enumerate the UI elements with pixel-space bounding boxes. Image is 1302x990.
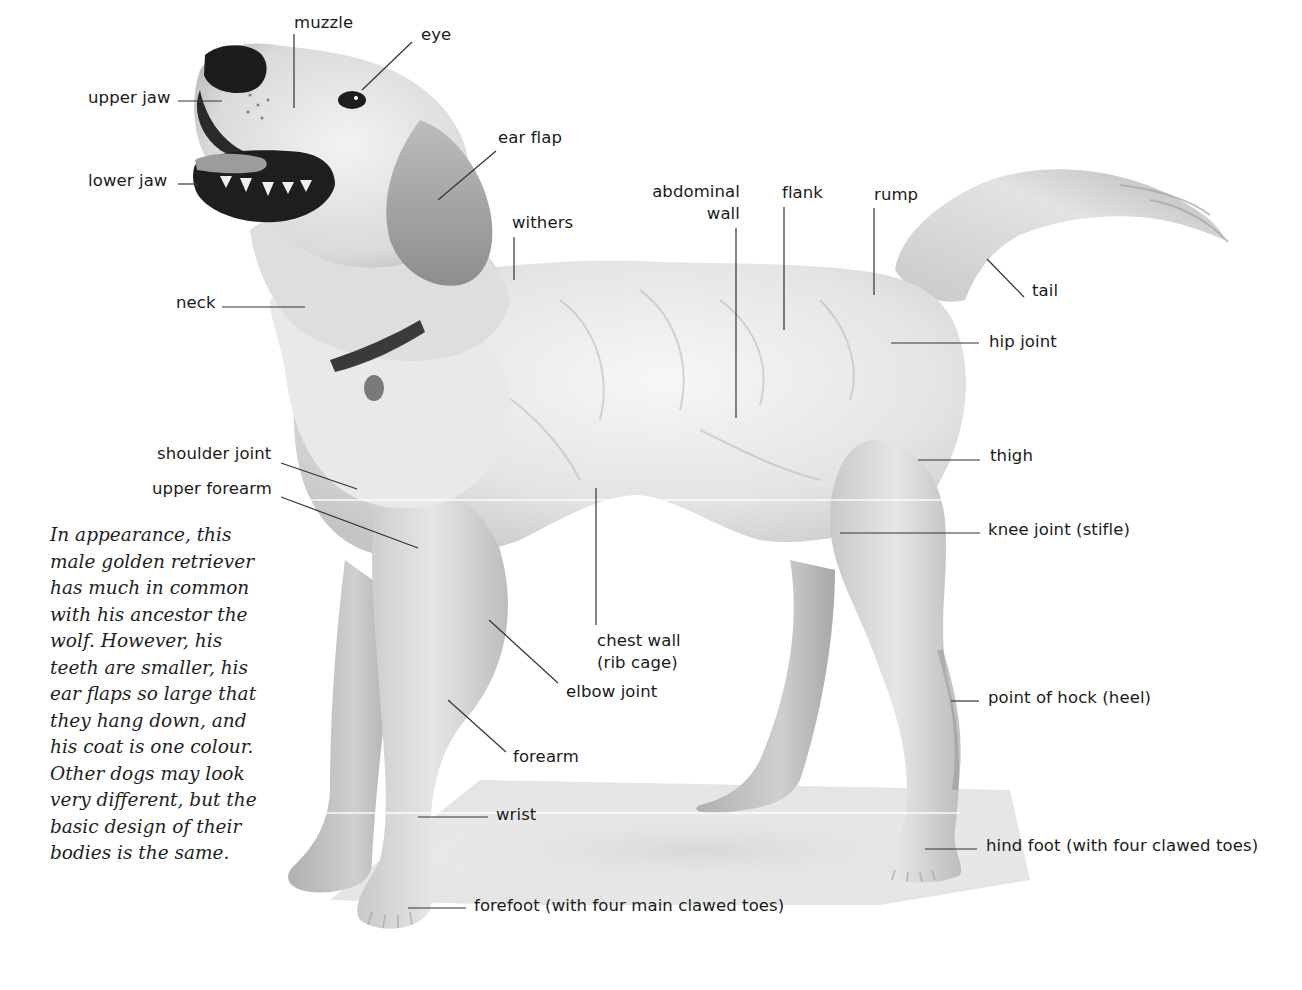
caption-line: basic design of their [50,814,280,841]
label-thigh: thigh [990,446,1033,466]
caption-line: bodies is the same. [50,840,280,867]
label-forearm: forearm [513,747,579,767]
label-abdominal-wall: abdominal wall [652,181,740,225]
label-point-of-hock: point of hock (heel) [988,688,1151,708]
label-upper-forearm: upper forearm [152,479,272,499]
label-flank: flank [782,183,823,203]
nose [204,45,267,93]
label-lower-jaw: lower jaw [88,171,167,191]
caption-line: ear flaps so large that [50,681,280,708]
caption-text: In appearance, this male golden retrieve… [50,522,280,867]
label-eye: eye [421,25,451,45]
caption-line: In appearance, this [50,522,280,549]
label-forefoot: forefoot (with four main clawed toes) [474,896,784,916]
label-elbow-joint: elbow joint [566,682,657,702]
label-hip-joint: hip joint [989,332,1057,352]
label-ear-flap: ear flap [498,128,562,148]
caption-line: male golden retriever [50,549,280,576]
label-hind-foot: hind foot (with four clawed toes) [986,836,1258,856]
caption-line: Other dogs may look [50,761,280,788]
label-tail: tail [1032,281,1058,301]
collar-tag [364,375,384,401]
label-wrist: wrist [496,805,536,825]
far-hind-leg [696,560,835,813]
caption-line: wolf. However, his [50,628,280,655]
tongue [195,154,267,174]
label-withers: withers [512,213,573,233]
label-upper-jaw: upper jaw [88,88,171,108]
dog-anatomy-diagram: muzzle eye upper jaw lower jaw ear flap … [0,0,1302,990]
label-rump: rump [874,185,918,205]
label-shoulder-joint: shoulder joint [157,444,271,464]
eye [338,91,366,109]
caption-line: they hang down, and [50,708,280,735]
label-knee-joint: knee joint (stifle) [988,520,1130,540]
label-neck: neck [176,293,216,313]
caption-line: his coat is one colour. [50,734,280,761]
caption-line: with his ancestor the [50,602,280,629]
label-chest-wall: chest wall (rib cage) [597,630,681,674]
caption-line: teeth are smaller, his [50,655,280,682]
tail [895,169,1225,301]
label-muzzle: muzzle [294,13,353,33]
caption-line: has much in common [50,575,280,602]
caption-line: very different, but the [50,787,280,814]
